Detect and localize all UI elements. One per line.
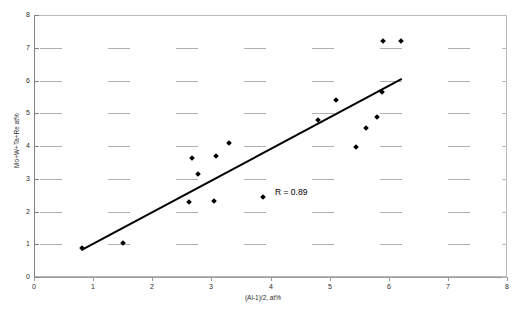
x-tick-label: 8 bbox=[495, 283, 519, 291]
y-tick-mark-right bbox=[502, 48, 507, 49]
x-tick-label: 0 bbox=[22, 283, 46, 291]
x-tick-mark bbox=[93, 277, 94, 281]
y-tick-mark bbox=[34, 81, 39, 82]
y-tick-mark-right bbox=[502, 244, 507, 245]
y-tick-mark-right bbox=[502, 113, 507, 114]
x-tick-label: 2 bbox=[140, 283, 164, 291]
y-tick-mark bbox=[34, 48, 39, 49]
correlation-annotation: R = 0.89 bbox=[275, 187, 307, 197]
x-tick-mark bbox=[34, 277, 35, 281]
x-tick-mark bbox=[152, 277, 153, 281]
x-tick-label: 5 bbox=[318, 283, 342, 291]
x-tick-label: 4 bbox=[259, 283, 283, 291]
x-tick-mark bbox=[330, 277, 331, 281]
x-tick-mark bbox=[448, 277, 449, 281]
x-tick-mark bbox=[507, 277, 508, 281]
y-tick-label: 0 bbox=[8, 273, 30, 281]
x-tick-mark bbox=[389, 277, 390, 281]
x-tick-label: 3 bbox=[199, 283, 223, 291]
y-tick-mark bbox=[34, 15, 39, 16]
y-tick-label: 2 bbox=[8, 208, 30, 216]
x-axis-title: (Al-1)/2, at% bbox=[0, 294, 526, 301]
y-tick-mark-right bbox=[502, 81, 507, 82]
x-tick-label: 7 bbox=[436, 283, 460, 291]
y-tick-mark-right bbox=[502, 15, 507, 16]
scatter-chart: 012345678 012345678 R = 0.89 (Al-1)/2, a… bbox=[0, 0, 526, 314]
x-tick-label: 1 bbox=[81, 283, 105, 291]
plot-area-frame bbox=[34, 15, 507, 277]
x-tick-mark bbox=[271, 277, 272, 281]
y-tick-label: 1 bbox=[8, 240, 30, 248]
y-tick-label: 8 bbox=[8, 11, 30, 19]
y-axis-title: Mo+W+Ta+Re at% bbox=[13, 81, 20, 201]
y-tick-mark bbox=[34, 146, 39, 147]
y-tick-mark-right bbox=[502, 212, 507, 213]
y-tick-mark bbox=[34, 179, 39, 180]
y-tick-mark bbox=[34, 212, 39, 213]
y-tick-label: 7 bbox=[8, 44, 30, 52]
y-tick-mark bbox=[34, 244, 39, 245]
y-tick-mark-right bbox=[502, 146, 507, 147]
x-tick-label: 6 bbox=[377, 283, 401, 291]
y-tick-mark-right bbox=[502, 179, 507, 180]
y-tick-mark bbox=[34, 113, 39, 114]
x-tick-mark bbox=[211, 277, 212, 281]
